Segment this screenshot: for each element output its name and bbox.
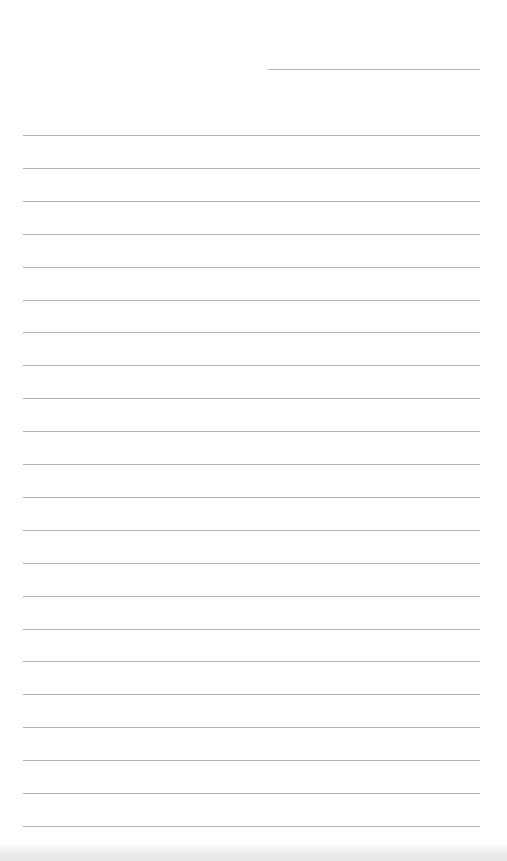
ruled-line [23, 727, 480, 728]
ruled-line [23, 826, 480, 827]
ruled-line [23, 398, 480, 399]
ruled-line [23, 760, 480, 761]
ruled-line [23, 201, 480, 202]
ruled-line [23, 431, 480, 432]
ruled-line [23, 135, 480, 136]
ruled-line [23, 300, 480, 301]
lined-paper-page [0, 0, 507, 861]
ruled-line [23, 563, 480, 564]
ruled-line [23, 530, 480, 531]
ruled-line [23, 694, 480, 695]
ruled-line [23, 793, 480, 794]
ruled-line [23, 234, 480, 235]
ruled-line [23, 332, 480, 333]
ruled-line [23, 267, 480, 268]
ruled-line [23, 497, 480, 498]
page-bottom-edge [0, 843, 507, 861]
header-rule [268, 69, 480, 70]
ruled-line [23, 168, 480, 169]
ruled-line [23, 596, 480, 597]
ruled-line [23, 661, 480, 662]
ruled-line [23, 464, 480, 465]
ruled-line [23, 629, 480, 630]
ruled-line [23, 365, 480, 366]
